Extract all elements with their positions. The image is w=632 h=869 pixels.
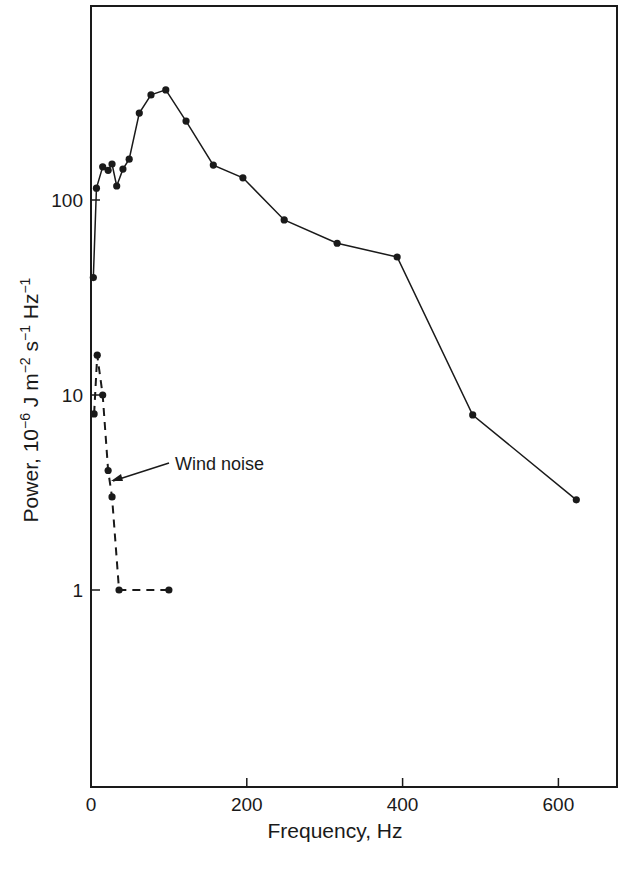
data-point [394, 253, 401, 260]
arrow-head-icon [111, 474, 123, 481]
data-point [182, 117, 189, 124]
x-tick-label: 600 [543, 794, 575, 815]
data-point [119, 166, 126, 173]
x-tick-label: 400 [387, 794, 419, 815]
data-point [165, 586, 172, 593]
data-point [281, 216, 288, 223]
data-point [108, 160, 115, 167]
y-tick-label: 1 [72, 580, 83, 601]
data-point [126, 156, 133, 163]
data-point [94, 352, 101, 359]
x-axis-title: Frequency, Hz [268, 819, 403, 842]
y-axis-title: Power, 10−6 J m−2 s−1 Hz−1 [17, 277, 42, 522]
series-signal [90, 86, 580, 503]
x-axis-ticks: 0200400600 [86, 778, 575, 815]
data-point [99, 391, 106, 398]
chart: 0200400600 110100 Wind noise Frequency, … [0, 0, 632, 869]
wind-noise-annotation: Wind noise [111, 454, 264, 481]
data-point [136, 110, 143, 117]
data-point [113, 182, 120, 189]
x-tick-label: 0 [86, 794, 97, 815]
data-point [210, 161, 217, 168]
y-tick-label: 100 [51, 190, 83, 211]
series-layer [90, 86, 580, 593]
data-point [115, 586, 122, 593]
data-point [573, 496, 580, 503]
y-axis-ticks: 110100 [51, 190, 100, 601]
data-point [469, 411, 476, 418]
data-point [90, 274, 97, 281]
data-point [105, 167, 112, 174]
data-point [239, 174, 246, 181]
x-tick-label: 200 [231, 794, 263, 815]
data-point [147, 91, 154, 98]
data-point [108, 493, 115, 500]
data-point [91, 410, 98, 417]
annotation-label: Wind noise [175, 454, 264, 474]
data-point [162, 86, 169, 93]
series-line [93, 90, 576, 500]
data-point [334, 240, 341, 247]
series-wind-noise [91, 352, 173, 594]
y-tick-label: 10 [62, 385, 83, 406]
data-point [93, 185, 100, 192]
plot-frame [91, 6, 617, 787]
data-point [105, 467, 112, 474]
